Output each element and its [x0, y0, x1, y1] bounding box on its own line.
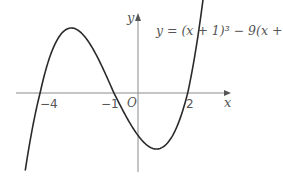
tick-label-neg1: −1	[101, 97, 119, 111]
y-axis-label: y	[126, 10, 135, 25]
equation-label: y = (x + 1)³ − 9(x + 1)	[155, 23, 283, 38]
tick-label-2: 2	[186, 97, 194, 111]
x-axis-label: x	[224, 95, 232, 110]
tick-label-neg4: −4	[40, 97, 58, 111]
cubic-graph: y x O −4 −1 2 y = (x + 1)³ − 9(x + 1)	[0, 0, 283, 180]
y-axis-arrow-icon	[135, 13, 141, 21]
origin-label: O	[127, 96, 137, 110]
